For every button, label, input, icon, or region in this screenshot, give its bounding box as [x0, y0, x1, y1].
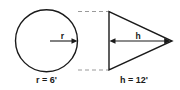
triangle-height-caption: h = 12'	[120, 75, 148, 85]
radius-arrow-head-icon	[72, 38, 78, 44]
height-variable-label: h	[135, 31, 140, 41]
geometry-figure: r h r = 6' h = 12'	[0, 0, 180, 90]
figure-canvas: r h r = 6' h = 12'	[0, 0, 180, 90]
circle-radius-caption: r = 6'	[36, 75, 57, 85]
height-arrow-head-left-icon	[109, 38, 115, 44]
radius-variable-label: r	[61, 31, 65, 41]
